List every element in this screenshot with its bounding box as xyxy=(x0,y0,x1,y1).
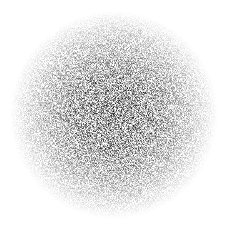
number-14-glyph xyxy=(0,0,60,38)
stippled-circle-badge: 14 xyxy=(0,0,229,235)
